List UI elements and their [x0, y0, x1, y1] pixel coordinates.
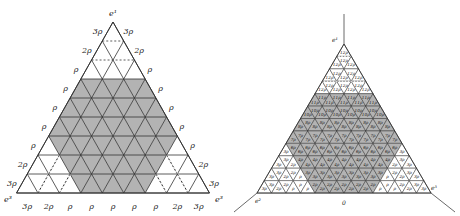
cell-label: 3ρ — [370, 174, 376, 179]
cell-label: 3ρ — [269, 174, 275, 179]
cell-label: ρ — [385, 182, 389, 187]
right-edge-label: ρ — [157, 84, 163, 93]
cell-label: 2ρ — [275, 186, 282, 191]
triangle-cell: 12ρ — [337, 44, 352, 56]
left-edge-label: ρ — [73, 65, 79, 74]
cell-label: 4ρ — [369, 157, 376, 162]
cell-label: 3ρ — [399, 157, 405, 162]
cell-label: 2ρ — [362, 186, 369, 191]
left-edge-label: 3ρ — [7, 179, 17, 188]
cell-label: 6ρ — [349, 145, 355, 150]
cells: 12ρ12ρ12ρ12ρ12ρ12ρ12ρ12ρ12ρ12ρ12ρ12ρ12ρ1… — [257, 44, 431, 193]
bottom-edge-label: ρ — [67, 202, 73, 211]
cell-label: 7ρ — [305, 137, 311, 142]
right-edge-label: ρ — [146, 65, 152, 74]
cell-label: 6ρ — [363, 145, 369, 150]
cell-label: 8ρ — [327, 124, 333, 129]
cell-label: 3ρ — [276, 162, 282, 167]
cell-label: 3ρ — [356, 174, 362, 179]
cell-label: ρ — [393, 186, 397, 191]
cell-label: 12ρ — [347, 62, 355, 67]
cell-label: 4ρ — [319, 162, 326, 167]
cell-label: 4ρ — [340, 157, 347, 162]
cell-label: 7ρ — [378, 137, 384, 142]
cell-label: 4ρ — [333, 162, 340, 167]
cell-label: 8ρ — [341, 124, 347, 129]
cell-label: 2ρ — [326, 182, 333, 187]
cell-label: 3ρ — [341, 174, 347, 179]
cell-label: 6ρ — [334, 145, 340, 150]
cell-label: 6ρ — [356, 149, 362, 154]
right-triangle-diagram: 12ρ12ρ12ρ12ρ12ρ12ρ12ρ12ρ12ρ12ρ12ρ12ρ12ρ1… — [234, 14, 455, 212]
cell-label: 4ρ — [311, 157, 318, 162]
cell-label: 8ρ — [385, 124, 391, 129]
vertex-label-bottom-left: e³ — [4, 195, 12, 204]
left-edge-label: ρ — [51, 103, 57, 112]
cell-label: 3ρ — [399, 149, 405, 154]
cell-label: 6ρ — [385, 149, 391, 154]
cell-label: ρ — [298, 174, 302, 179]
cell-label: 11ρ — [369, 100, 377, 105]
left-edge-label: 3ρ — [93, 27, 103, 36]
cell-label: 4ρ — [297, 157, 304, 162]
cell-label: 7ρ — [312, 133, 318, 138]
bottom-edge-label: ρ — [110, 202, 116, 211]
cell-label: 7ρ — [327, 133, 333, 138]
vertex-label-top: e¹ — [109, 9, 117, 18]
cell-label: 6ρ — [370, 149, 376, 154]
cell-label: ρ — [385, 174, 389, 179]
cell-label: 3ρ — [349, 170, 355, 175]
right-edge-label: ρ — [168, 103, 174, 112]
cell-label: 7ρ — [349, 137, 355, 142]
vertex-label-top: e¹ — [332, 36, 338, 43]
cell-label: 3ρ — [414, 182, 420, 187]
cell-label: 2ρ — [398, 182, 405, 187]
cell-label: 2ρ — [319, 186, 326, 191]
cell-label: 3ρ — [327, 174, 333, 179]
cell-label: 3ρ — [334, 170, 340, 175]
cell-label: 3ρ — [312, 174, 318, 179]
cell-label: 8ρ — [370, 124, 376, 129]
cell-label: 6ρ — [392, 145, 398, 150]
right-edge-label: ρ — [189, 141, 195, 150]
cell-label: 8ρ — [363, 120, 369, 125]
bottom-edge-label: 2ρ — [171, 202, 182, 211]
cell-label: ρ — [291, 186, 295, 191]
cell-label: 3ρ — [262, 186, 268, 191]
cell-label: 7ρ — [334, 137, 340, 142]
cell-label: ρ — [306, 186, 310, 191]
cell-label: 7ρ — [392, 137, 398, 142]
cell-label: 2ρ — [391, 170, 398, 175]
left-edge-label: 2ρ — [81, 46, 92, 55]
left-edge-label: ρ — [62, 84, 68, 93]
cell-label: 3ρ — [283, 149, 289, 154]
left-edge-label: 2ρ — [17, 160, 28, 169]
cell-label: 7ρ — [385, 133, 391, 138]
cell-label: 2ρ — [290, 170, 297, 175]
cell-label: 2ρ — [290, 162, 297, 167]
origin-label: 0 — [342, 199, 346, 206]
cell-label: 7ρ — [320, 137, 326, 142]
cell-label: 2ρ — [391, 162, 398, 167]
cell-label: 8ρ — [334, 120, 340, 125]
cell-label: 3ρ — [269, 182, 275, 187]
bottom-edge-label: 2ρ — [43, 202, 54, 211]
vertex-label-bottom-left: e² — [255, 197, 262, 204]
cell-label: 7ρ — [291, 137, 297, 142]
cell-label: 6ρ — [341, 149, 347, 154]
bottom-edge-label: ρ — [153, 202, 159, 211]
cell-label: 4ρ — [377, 162, 384, 167]
cell-label: 2ρ — [398, 174, 405, 179]
cell-label: 6ρ — [305, 145, 311, 150]
cell-label: 8ρ — [305, 120, 311, 125]
right-edge-label: 2ρ — [198, 160, 209, 169]
cell-label: 3ρ — [363, 170, 369, 175]
cell-label: 2ρ — [311, 182, 318, 187]
cell-label: 2ρ — [340, 182, 347, 187]
cell-label: 3ρ — [378, 170, 384, 175]
left-edge-label: ρ — [41, 122, 47, 131]
right-edge-label: ρ — [179, 122, 185, 131]
cell-label: 4ρ — [362, 162, 369, 167]
cell-label: 7ρ — [341, 133, 347, 138]
cell-label: 3ρ — [276, 170, 282, 175]
